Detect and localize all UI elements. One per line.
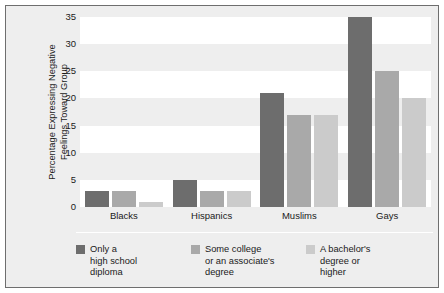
bar: [85, 191, 109, 207]
bar: [139, 202, 163, 207]
chart-panel: Percentage Expressing Negative Feelings …: [5, 5, 439, 288]
bar: [260, 93, 284, 207]
legend-label-line: higher: [320, 267, 370, 279]
plot-area: [80, 17, 431, 207]
bar: [227, 191, 251, 207]
y-axis-tick-label: 25: [65, 67, 76, 77]
x-axis-labels: BlacksHispanicsMuslimsGays: [80, 210, 431, 221]
legend-label: Some collegeor an associate'sdegree: [205, 244, 274, 279]
legend-separator: [76, 232, 433, 233]
y-axis-ticks: 05101520253035: [52, 17, 76, 207]
legend-label-line: high school: [90, 256, 137, 268]
bar-group: [80, 17, 168, 207]
legend-swatch-icon: [191, 245, 200, 254]
legend-label: A bachelor'sdegree orhigher: [320, 244, 370, 279]
chart-figure: Percentage Expressing Negative Feelings …: [0, 0, 444, 293]
legend-label-line: Some college: [205, 244, 274, 256]
bar: [200, 191, 224, 207]
y-axis-title: Percentage Expressing Negative Feelings …: [26, 17, 52, 207]
legend-label-line: diploma: [90, 267, 137, 279]
y-axis-tick-label: 30: [65, 39, 76, 49]
bar: [348, 17, 372, 207]
bar: [173, 180, 197, 207]
bar: [112, 191, 136, 207]
x-axis-label: Muslims: [256, 210, 344, 221]
y-axis-tick-label: 10: [65, 148, 76, 158]
legend-label-line: or an associate's: [205, 256, 274, 268]
bar: [375, 71, 399, 207]
bar: [402, 98, 426, 207]
bar-group: [168, 17, 256, 207]
legend-label-line: degree: [205, 267, 274, 279]
legend-swatch-icon: [76, 245, 85, 254]
x-axis-label: Gays: [343, 210, 431, 221]
bar-group: [343, 17, 431, 207]
x-axis-label: Blacks: [80, 210, 168, 221]
legend-item: Some collegeor an associate'sdegree: [191, 244, 306, 279]
bar-groups: [80, 17, 431, 207]
bar: [314, 115, 338, 207]
y-axis-tick-label: 5: [71, 175, 76, 185]
legend-label-line: degree or: [320, 256, 370, 268]
legend-swatch-icon: [306, 245, 315, 254]
legend-label-line: A bachelor's: [320, 244, 370, 256]
bar-group: [256, 17, 344, 207]
chart-legend: Only ahigh schooldiplomaSome collegeor a…: [76, 244, 421, 279]
legend-item: Only ahigh schooldiploma: [76, 244, 191, 279]
y-axis-tick-label: 0: [71, 202, 76, 212]
bar: [287, 115, 311, 207]
x-axis-label: Hispanics: [168, 210, 256, 221]
legend-label-line: Only a: [90, 244, 137, 256]
y-axis-tick-label: 20: [65, 94, 76, 104]
y-axis-tick-label: 35: [65, 12, 76, 22]
legend-label: Only ahigh schooldiploma: [90, 244, 137, 279]
legend-item: A bachelor'sdegree orhigher: [306, 244, 421, 279]
y-axis-tick-label: 15: [65, 121, 76, 131]
